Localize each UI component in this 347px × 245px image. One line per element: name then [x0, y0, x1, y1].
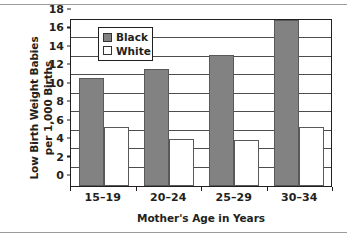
bar-black-1	[144, 69, 169, 186]
legend-item-white: White	[103, 46, 147, 57]
y-axis-tick-label: 4	[56, 133, 67, 144]
bar-group	[201, 20, 266, 186]
y-axis-tick-label: 12	[49, 59, 67, 70]
x-axis-title: Mother's Age in Years	[70, 212, 332, 224]
plot-area: 024681012141618 Black White	[70, 19, 332, 187]
x-axis-tick-labels: 15–1920–2425–2930–34	[70, 191, 332, 204]
y-axis-tick-label: 6	[56, 114, 67, 125]
x-axis-tick-label: 25–29	[201, 191, 267, 204]
y-axis-tick-label: 2	[56, 151, 67, 162]
bar-black-3	[274, 20, 299, 186]
y-axis-tick-label: 0	[56, 170, 67, 181]
legend: Black White	[98, 27, 153, 61]
bar-chart-figure: Low Birth Weight Babies per 1,000 Births…	[0, 5, 347, 231]
legend-item-black: Black	[103, 32, 147, 43]
x-axis-tick-mark	[332, 187, 333, 191]
y-axis-title-line-1: Low Birth Weight Babies	[28, 36, 42, 179]
x-axis-tick-label: 30–34	[267, 191, 333, 204]
y-axis-tick: 8	[56, 96, 71, 107]
y-axis-tick-label: 16	[49, 22, 67, 33]
bar-white-3	[299, 127, 324, 186]
y-axis-tick-label: 14	[49, 40, 67, 51]
y-axis-tick: 16	[49, 22, 71, 33]
bar-group	[266, 20, 331, 186]
y-axis-tick: 18	[49, 4, 71, 15]
bar-black-0	[79, 78, 104, 186]
legend-swatch-black-icon	[103, 33, 112, 42]
x-axis-tick-label: 15–19	[70, 191, 136, 204]
y-axis-tick-label: 10	[49, 77, 67, 88]
y-axis-tick: 10	[49, 77, 71, 88]
y-axis-tick: 0	[56, 170, 71, 181]
y-axis-tick: 14	[49, 40, 71, 51]
y-axis-tick-mark	[67, 8, 71, 9]
x-axis-tick-label: 20–24	[136, 191, 202, 204]
y-axis-tick-label: 8	[56, 96, 67, 107]
bar-white-1	[169, 139, 194, 186]
legend-label-black: Black	[116, 32, 148, 43]
y-axis-title-line-2: per 1,000 Births	[42, 61, 56, 155]
y-axis-tick: 4	[56, 133, 71, 144]
page-rule-bottom	[0, 232, 347, 233]
bar-white-2	[234, 140, 259, 186]
y-axis-tick: 2	[56, 151, 71, 162]
bar-black-2	[209, 55, 234, 186]
y-axis-tick: 12	[49, 59, 71, 70]
y-axis-tick: 6	[56, 114, 71, 125]
legend-swatch-white-icon	[103, 46, 112, 55]
bar-white-0	[104, 127, 129, 186]
y-axis-tick-label: 18	[49, 4, 67, 15]
legend-label-white: White	[116, 46, 151, 57]
